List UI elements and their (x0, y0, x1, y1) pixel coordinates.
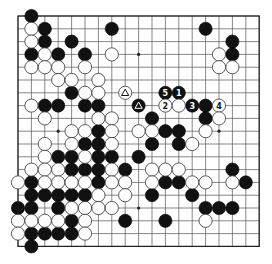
black-stone (65, 189, 78, 202)
white-stone (11, 227, 24, 240)
black-stone (226, 48, 239, 61)
white-stone (105, 201, 118, 214)
white-stone (65, 201, 78, 214)
black-stone (25, 189, 38, 202)
black-stone (186, 189, 199, 202)
white-stone (92, 112, 105, 125)
black-stone (105, 150, 118, 163)
black-stone (92, 99, 105, 112)
white-stone (52, 163, 65, 176)
white-stone (172, 99, 185, 112)
white-stone (78, 61, 91, 74)
white-stone (105, 125, 118, 138)
white-stone (25, 99, 38, 112)
black-stone (132, 150, 145, 163)
white-stone (38, 137, 51, 150)
white-stone (172, 163, 185, 176)
black-stone (52, 150, 65, 163)
black-stone (172, 137, 185, 150)
black-stone (65, 214, 78, 227)
black-stone (199, 112, 212, 125)
black-stone (78, 163, 91, 176)
white-stone (145, 125, 158, 138)
white-stone (38, 150, 51, 163)
black-stone (92, 163, 105, 176)
go-board-diagram: 12345 (0, 0, 272, 264)
white-stone (105, 176, 118, 189)
black-stone (172, 176, 185, 189)
black-stone (11, 201, 24, 214)
white-stone (78, 176, 91, 189)
black-stone (65, 163, 78, 176)
black-stone (25, 240, 38, 253)
black-stone (159, 125, 172, 138)
black-stone (78, 137, 91, 150)
black-stone (78, 99, 91, 112)
white-stone (199, 125, 212, 138)
black-stone (38, 189, 51, 202)
white-stone (105, 137, 118, 150)
black-stone (25, 201, 38, 214)
white-stone (212, 48, 225, 61)
white-stone (92, 73, 105, 86)
black-stone (159, 176, 172, 189)
white-stone (186, 176, 199, 189)
move-number-label: 5 (163, 89, 169, 98)
black-stone (226, 201, 239, 214)
black-stone (199, 99, 212, 112)
white-stone (25, 163, 38, 176)
star-point (137, 53, 140, 56)
white-stone (105, 163, 118, 176)
black-stone (145, 137, 158, 150)
white-stone (78, 214, 91, 227)
black-stone (226, 163, 239, 176)
black-stone (25, 176, 38, 189)
black-stone (65, 35, 78, 48)
black-stone (239, 176, 252, 189)
black-stone (78, 189, 91, 202)
white-stone (25, 61, 38, 74)
white-stone (119, 189, 132, 202)
white-stone (92, 86, 105, 99)
black-stone (52, 48, 65, 61)
white-stone (52, 73, 65, 86)
go-board: 12345 (0, 0, 272, 264)
black-stone (78, 48, 91, 61)
black-stone (145, 112, 158, 125)
white-stone (52, 61, 65, 74)
white-stone (38, 61, 51, 74)
white-stone (38, 214, 51, 227)
black-stone (52, 189, 65, 202)
black-stone (199, 201, 212, 214)
white-stone (78, 150, 91, 163)
black-stone (25, 48, 38, 61)
white-stone (212, 61, 225, 74)
white-stone (65, 125, 78, 138)
black-stone (92, 125, 105, 138)
black-stone (92, 176, 105, 189)
white-stone (11, 214, 24, 227)
black-stone (172, 125, 185, 138)
white-stone (119, 176, 132, 189)
white-stone (78, 201, 91, 214)
white-stone (65, 73, 78, 86)
move-number-label: 4 (216, 102, 222, 111)
white-stone (38, 48, 51, 61)
white-stone (132, 125, 145, 138)
black-stone (38, 22, 51, 35)
white-stone (145, 176, 158, 189)
black-stone (25, 227, 38, 240)
black-stone (119, 214, 132, 227)
move-number-label: 1 (176, 89, 182, 98)
white-stone (226, 61, 239, 74)
white-stone (199, 214, 212, 227)
black-stone (119, 163, 132, 176)
white-stone (92, 201, 105, 214)
black-stone (38, 227, 51, 240)
white-stone (38, 163, 51, 176)
white-stone (11, 176, 24, 189)
black-stone (38, 35, 51, 48)
white-stone (159, 163, 172, 176)
black-stone (105, 22, 118, 35)
black-stone (65, 227, 78, 240)
